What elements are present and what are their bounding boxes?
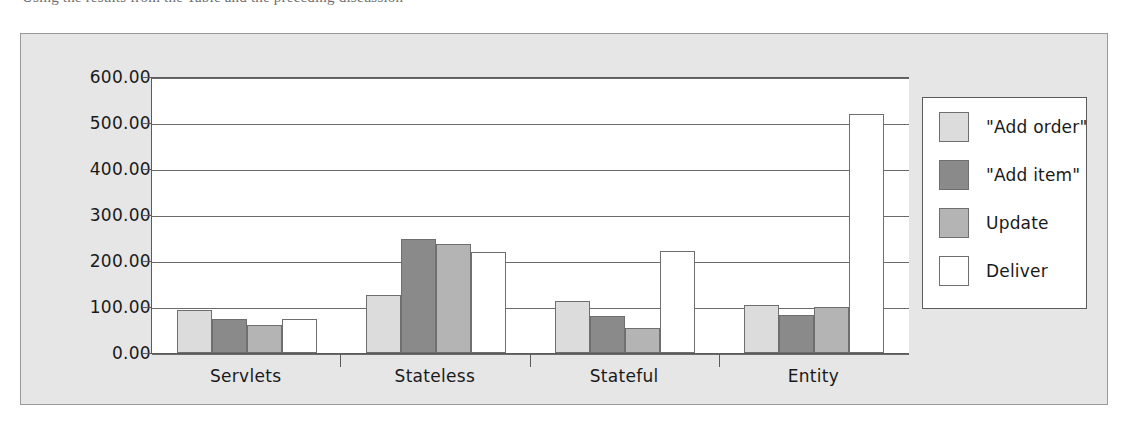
y-axis: 0.00100.00200.00300.00400.00500.00600.00 <box>39 77 151 353</box>
y-tick-mark-100 <box>142 307 151 308</box>
y-tick-label-0: 0.00 <box>59 343 151 363</box>
x-axis: ServletsStatelessStatefulEntity <box>151 353 909 392</box>
bar-stateless-series-3 <box>471 252 506 353</box>
bar-stateful-series-0 <box>555 301 590 353</box>
y-tick-label-600: 600.00 <box>59 67 151 87</box>
bar-entity-series-3 <box>849 114 884 353</box>
y-tick-mark-300 <box>142 215 151 216</box>
bar-stateful-series-3 <box>660 251 695 353</box>
bar-entity-series-0 <box>744 305 779 353</box>
bar-stateful-series-2 <box>625 328 660 353</box>
y-tick-label-200: 200.00 <box>59 251 151 271</box>
y-tick-label-300: 300.00 <box>59 205 151 225</box>
x-axis-group-stateless: Stateless <box>340 354 529 392</box>
bar-servlets-series-2 <box>247 325 282 353</box>
caption-text-fragment: Using the results from the Table and the… <box>22 0 542 5</box>
x-axis-separator-3 <box>719 354 720 367</box>
bar-servlets-series-0 <box>177 310 212 353</box>
y-tick-mark-400 <box>142 169 151 170</box>
bar-servlets-series-1 <box>212 319 247 353</box>
x-axis-label-servlets: Servlets <box>151 366 340 386</box>
chart-legend: "Add order""Add item"UpdateDeliver <box>922 97 1087 309</box>
legend-label: Update <box>986 213 1049 233</box>
y-tick-label-400: 400.00 <box>59 159 151 179</box>
legend-label: "Add item" <box>986 165 1080 185</box>
x-axis-separator-2 <box>530 354 531 367</box>
bar-stateless-series-2 <box>436 244 471 353</box>
chart-figure-frame: 0.00100.00200.00300.00400.00500.00600.00… <box>20 33 1108 405</box>
x-axis-label-stateful: Stateful <box>530 366 719 386</box>
legend-swatch-icon <box>939 256 969 286</box>
bar-entity-series-1 <box>779 315 814 353</box>
legend-label: "Add order" <box>986 117 1088 137</box>
bar-entity-series-2 <box>814 307 849 353</box>
y-tick-label-100: 100.00 <box>59 297 151 317</box>
bar-servlets-series-3 <box>282 319 317 353</box>
legend-swatch-icon <box>939 208 969 238</box>
legend-item: Update <box>939 208 1049 238</box>
y-tick-label-500: 500.00 <box>59 113 151 133</box>
bars-layer <box>152 77 908 353</box>
legend-item: "Add order" <box>939 112 1088 142</box>
x-axis-group-servlets: Servlets <box>151 354 340 392</box>
legend-label: Deliver <box>986 261 1048 281</box>
bar-stateful-series-1 <box>590 316 625 353</box>
legend-swatch-icon <box>939 160 969 190</box>
y-tick-mark-0 <box>142 353 151 354</box>
x-axis-label-stateless: Stateless <box>340 366 529 386</box>
legend-item: Deliver <box>939 256 1048 286</box>
y-tick-mark-500 <box>142 123 151 124</box>
bar-stateless-series-1 <box>401 239 436 353</box>
legend-item: "Add item" <box>939 160 1080 190</box>
x-axis-label-entity: Entity <box>719 366 908 386</box>
legend-swatch-icon <box>939 112 969 142</box>
x-axis-separator-1 <box>340 354 341 367</box>
bar-stateless-series-0 <box>366 295 401 353</box>
x-axis-group-entity: Entity <box>719 354 908 392</box>
y-tick-mark-600 <box>142 77 151 78</box>
x-axis-group-stateful: Stateful <box>530 354 719 392</box>
y-tick-mark-200 <box>142 261 151 262</box>
